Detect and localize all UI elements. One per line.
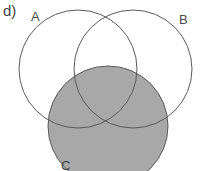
venn-diagram-canvas: [0, 0, 200, 171]
set-b-label: B: [179, 13, 188, 26]
set-c-label: C: [61, 159, 70, 171]
part-label: d): [3, 3, 16, 18]
set-a-label: A: [31, 10, 40, 23]
set-c-shaded-region: [48, 66, 168, 171]
venn-diagram-figure: d) A B C: [0, 0, 200, 171]
